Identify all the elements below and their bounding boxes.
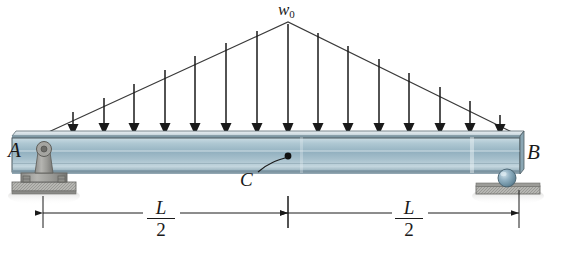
support-label-a: A	[8, 138, 21, 163]
load-arrow	[283, 24, 294, 136]
load-arrow	[374, 59, 385, 135]
dimension-lines	[43, 190, 519, 228]
load-arrow	[252, 31, 263, 135]
load-intensity-label: w0	[278, 0, 295, 20]
beam-load-diagram: A B C w0 L 2 L 2	[0, 0, 570, 268]
dimension-left-denominator: 2	[147, 220, 175, 239]
dimension-right-numerator: L	[395, 198, 423, 217]
load-symbol: w	[278, 0, 289, 19]
beam	[12, 131, 524, 174]
roller-support	[472, 169, 544, 205]
figure-caption	[0, 256, 570, 268]
diagram-canvas	[0, 0, 570, 268]
load-arrow	[465, 101, 476, 135]
load-subscript: 0	[289, 8, 295, 20]
dimension-right-denominator: 2	[395, 220, 423, 239]
dimension-label-right: L 2	[395, 198, 423, 239]
load-arrow	[99, 98, 110, 135]
midpoint-label-c: C	[240, 169, 253, 191]
load-arrow	[221, 43, 232, 135]
dimension-label-left: L 2	[147, 198, 175, 239]
load-arrow	[404, 73, 415, 135]
support-label-b: B	[527, 140, 540, 165]
load-arrow	[343, 46, 354, 135]
load-triangle-outline	[42, 22, 518, 135]
load-arrow	[129, 84, 140, 135]
dimension-left-numerator: L	[147, 198, 175, 217]
load-arrow	[313, 33, 324, 135]
load-arrow-group	[68, 24, 506, 136]
load-arrow	[190, 56, 201, 135]
